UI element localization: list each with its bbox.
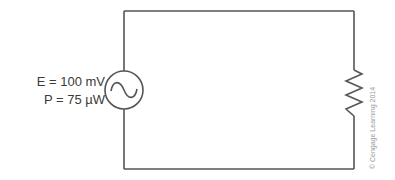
power-label: P = 75 µW — [44, 92, 105, 108]
copyright-notice: © Cengage Learning 2014 — [369, 87, 376, 169]
resistor-icon — [346, 70, 362, 116]
circuit-diagram — [0, 0, 395, 180]
voltage-label: E = 100 mV — [37, 74, 105, 90]
ac-source-icon — [105, 71, 143, 109]
